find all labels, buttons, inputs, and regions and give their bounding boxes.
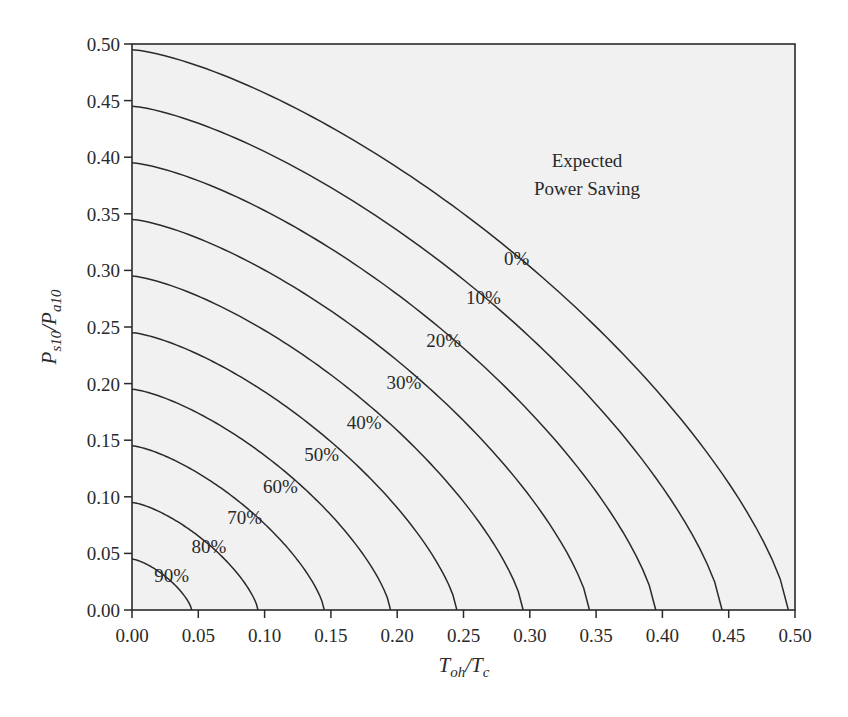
x-tick-label: 0.35	[579, 625, 612, 646]
y-tick-label: 0.00	[87, 600, 120, 621]
x-tick-label: 0.40	[646, 625, 679, 646]
curve-label-80pct: 80%	[191, 536, 226, 557]
curve-label-50pct: 50%	[304, 444, 339, 465]
x-tick-label: 0.30	[513, 625, 546, 646]
curve-label-70pct: 70%	[227, 507, 262, 528]
y-tick-label: 0.35	[87, 204, 120, 225]
y-tick-label: 0.20	[87, 374, 120, 395]
y-tick-label: 0.05	[87, 543, 120, 564]
x-tick-label: 0.45	[712, 625, 745, 646]
y-axis: 0.000.050.100.150.200.250.300.350.400.45…	[87, 34, 132, 621]
annotation-line-2: Power Saving	[534, 178, 641, 199]
y-axis-title: Ps10/Pa10	[37, 289, 64, 365]
y-tick-label: 0.45	[87, 91, 120, 112]
curve-label-40pct: 40%	[347, 412, 382, 433]
y-tick-label: 0.25	[87, 317, 120, 338]
x-tick-label: 0.05	[182, 625, 215, 646]
curve-label-60pct: 60%	[263, 476, 298, 497]
x-tick-label: 0.00	[115, 625, 148, 646]
y-tick-label: 0.40	[87, 147, 120, 168]
curve-label-0pct: 0%	[504, 248, 530, 269]
curve-label-30pct: 30%	[386, 372, 421, 393]
x-axis: 0.000.050.100.150.200.250.300.350.400.45…	[115, 610, 811, 646]
curve-label-20pct: 20%	[426, 330, 461, 351]
curve-label-10pct: 10%	[466, 287, 501, 308]
x-axis-title: Toh/Tc	[439, 653, 490, 680]
x-tick-label: 0.20	[381, 625, 414, 646]
x-tick-label: 0.50	[778, 625, 811, 646]
y-tick-label: 0.50	[87, 34, 120, 55]
y-tick-label: 0.15	[87, 430, 120, 451]
curve-label-90pct: 90%	[154, 565, 189, 586]
y-tick-label: 0.10	[87, 487, 120, 508]
x-tick-label: 0.10	[248, 625, 281, 646]
x-tick-label: 0.15	[314, 625, 347, 646]
x-tick-label: 0.25	[447, 625, 480, 646]
annotation-line-1: Expected	[552, 150, 623, 171]
y-tick-label: 0.30	[87, 260, 120, 281]
chart: 0%10%20%30%40%50%60%70%80%90% 0.000.050.…	[0, 0, 848, 717]
